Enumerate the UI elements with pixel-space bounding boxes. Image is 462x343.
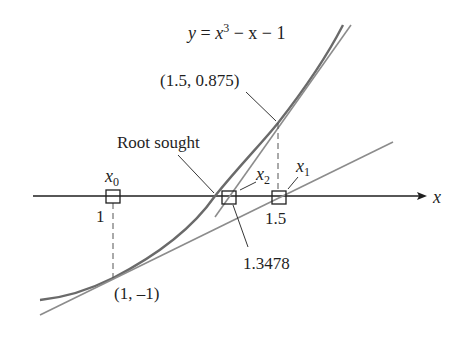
leader-x1 [288,177,298,189]
tangent-line-x0 [40,142,393,315]
x0-label: x0 [104,166,119,189]
leader-point-top [246,92,276,121]
tick-label-1-5: 1.5 [265,209,286,228]
tangent-line-x1 [215,25,351,217]
leader-x2 [240,182,256,190]
point-label-top: (1.5, 0.875) [160,71,239,90]
x2-label: x2 [255,164,270,187]
x-axis-label: x [432,187,441,207]
equation-label: y = x3 − x − 1 [186,21,285,43]
point-label-bottom: (1, –1) [114,284,159,303]
leader-root-sought [178,155,214,193]
root-value-label: 1.3478 [243,254,290,273]
x1-label: x1 [295,156,310,179]
root-sought-label: Root sought [117,133,200,152]
tick-label-1: 1 [96,207,105,226]
leader-root-value [233,205,248,247]
newton-method-diagram: y = x3 − x − 1 (1.5, 0.875) (1, –1) Root… [0,0,462,343]
